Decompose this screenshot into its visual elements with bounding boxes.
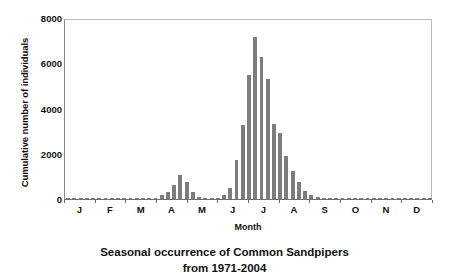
x-axis-month-label: M (187, 204, 217, 215)
bar (79, 198, 83, 200)
bar (284, 156, 288, 199)
bar (216, 198, 220, 200)
bar (403, 198, 407, 200)
bar (384, 198, 388, 200)
bar (160, 195, 164, 199)
x-axis-tick (64, 200, 65, 203)
bar (110, 198, 114, 200)
bar (241, 125, 245, 199)
x-axis-title: Month (64, 222, 432, 232)
chart-figure: Cumulative number of individuals 8000600… (0, 0, 449, 280)
bar (372, 198, 376, 200)
x-axis-tick-labels: JFMAMJJASOND (64, 204, 432, 218)
bar (154, 198, 158, 200)
bar (260, 57, 264, 199)
bar (366, 198, 370, 200)
bar (278, 133, 282, 199)
bar (222, 195, 226, 199)
bar (122, 198, 126, 200)
bar (228, 188, 232, 199)
bar (203, 198, 207, 200)
plot-area (64, 19, 432, 200)
bar (97, 198, 101, 200)
x-axis-tick (279, 200, 280, 203)
bar (297, 182, 301, 199)
bar (185, 182, 189, 199)
chart-caption: Seasonal occurrence of Common Sandpipers… (0, 244, 449, 276)
bar (291, 171, 295, 199)
bar (235, 160, 239, 199)
bar (166, 192, 170, 199)
bar (147, 198, 151, 200)
x-axis-tick (187, 200, 188, 203)
x-axis-tick (156, 200, 157, 203)
x-axis-month-label: J (64, 204, 94, 215)
bar (141, 198, 145, 200)
x-axis-tick (340, 200, 341, 203)
x-axis-month-label: O (340, 204, 370, 215)
y-axis-tick-labels: 80006000400020000 (26, 0, 62, 280)
x-axis-tick (248, 200, 249, 203)
bar (428, 198, 432, 200)
y-axis-tick-label: 4000 (28, 105, 62, 115)
bar (303, 191, 307, 199)
bar (116, 198, 120, 200)
bar-series (65, 20, 431, 199)
x-axis-month-label: D (402, 204, 432, 215)
bar (272, 124, 276, 199)
y-axis-tick-label: 2000 (28, 150, 62, 160)
bar (422, 198, 426, 200)
bar (253, 37, 257, 199)
bar (66, 198, 70, 200)
bar (397, 198, 401, 200)
bar (85, 198, 89, 200)
x-axis-tick (401, 200, 402, 203)
y-axis-tick-label: 6000 (28, 59, 62, 69)
x-axis-month-label: J (218, 204, 248, 215)
x-axis-month-label: A (279, 204, 309, 215)
bar (359, 198, 363, 200)
bar (129, 198, 133, 200)
x-axis-month-label: J (248, 204, 278, 215)
bar (178, 175, 182, 199)
bar (191, 192, 195, 199)
x-axis-month-label: S (310, 204, 340, 215)
bar (409, 198, 413, 200)
x-axis-month-label: F (95, 204, 125, 215)
bar (197, 197, 201, 199)
bar (266, 79, 270, 199)
bar (247, 75, 251, 199)
bar (322, 198, 326, 200)
bar (391, 198, 395, 200)
bar (72, 198, 76, 200)
bar (135, 198, 139, 200)
y-axis-tick-label: 0 (28, 195, 62, 205)
bar (353, 198, 357, 200)
x-axis-tick (217, 200, 218, 203)
bar (378, 198, 382, 200)
x-axis-month-label: N (371, 204, 401, 215)
x-axis-tick (125, 200, 126, 203)
x-axis-tick (371, 200, 372, 203)
bar (309, 195, 313, 199)
bar (341, 198, 345, 200)
x-axis-month-label: M (126, 204, 156, 215)
bar (316, 197, 320, 199)
chart-subtitle: from 1971-2004 (0, 260, 449, 276)
bar (210, 198, 214, 200)
bar (334, 198, 338, 200)
bar (104, 198, 108, 200)
bar (172, 185, 176, 199)
x-axis-tick (95, 200, 96, 203)
bar (347, 198, 351, 200)
x-axis-tick (432, 200, 433, 203)
y-axis-tick-label: 8000 (28, 14, 62, 24)
chart-title: Seasonal occurrence of Common Sandpipers (100, 246, 349, 258)
x-axis-tick (309, 200, 310, 203)
bar (91, 198, 95, 200)
bar (415, 198, 419, 200)
x-axis-month-label: A (156, 204, 186, 215)
bar (328, 198, 332, 200)
